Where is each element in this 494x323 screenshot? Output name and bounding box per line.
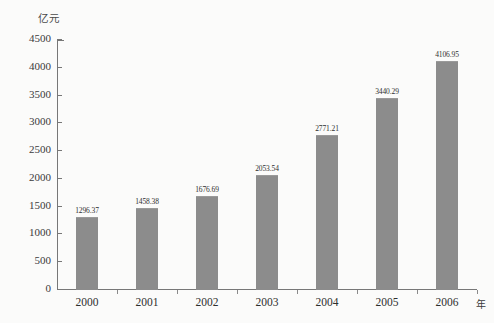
- bar: 2053.54: [256, 175, 278, 290]
- x-boundary-tick: [237, 290, 238, 294]
- y-tick: 1500: [57, 206, 62, 207]
- bar: 4106.95: [436, 61, 458, 290]
- y-tick-mark: [57, 206, 62, 207]
- bar-value-label: 1676.69: [195, 185, 219, 194]
- bar: 2771.21: [316, 135, 338, 290]
- y-tick-mark: [57, 67, 62, 68]
- y-tick-mark: [57, 122, 62, 123]
- bar-chart: 亿元 050010001500200025003000350040004500 …: [0, 0, 494, 323]
- bar-value-label: 4106.95: [435, 50, 459, 59]
- x-boundary-tick: [417, 290, 418, 294]
- y-tick: 4000: [57, 67, 62, 68]
- y-tick-label: 2000: [29, 171, 51, 183]
- y-tick: 4500: [57, 39, 62, 40]
- y-tick-mark: [57, 95, 62, 96]
- x-boundary-tick: [477, 290, 478, 294]
- x-axis-label: 2004: [316, 296, 339, 308]
- y-tick-label: 4000: [29, 60, 51, 72]
- y-tick: 3500: [57, 95, 62, 96]
- bar: 1676.69: [196, 196, 218, 290]
- x-axis-label: 2001: [136, 296, 159, 308]
- bar-value-label: 2771.21: [315, 124, 339, 133]
- bar-value-label: 1458.38: [135, 197, 159, 206]
- y-tick-mark: [57, 178, 62, 179]
- y-tick-label: 500: [35, 254, 52, 266]
- y-tick-label: 0: [46, 282, 52, 294]
- y-tick-mark: [57, 39, 62, 40]
- y-tick: 3000: [57, 122, 62, 123]
- y-tick-mark: [57, 261, 62, 262]
- y-tick-label: 1500: [29, 199, 51, 211]
- y-tick: 2000: [57, 178, 62, 179]
- bar-value-label: 3440.29: [375, 87, 399, 96]
- x-boundary-tick: [357, 290, 358, 294]
- y-tick-label: 4500: [29, 32, 51, 44]
- y-tick-mark: [57, 289, 62, 290]
- bar-value-label: 2053.54: [255, 164, 279, 173]
- bar: 1296.37: [76, 217, 98, 290]
- x-axis-label: 2005: [376, 296, 399, 308]
- y-axis-line: [57, 40, 58, 290]
- y-tick: 0: [57, 289, 62, 290]
- bar-value-label: 1296.37: [75, 206, 99, 215]
- x-axis-label: 2000: [76, 296, 99, 308]
- bar: 3440.29: [376, 98, 398, 290]
- y-tick: 500: [57, 261, 62, 262]
- y-tick-mark: [57, 233, 62, 234]
- y-tick-label: 2500: [29, 143, 51, 155]
- y-tick-label: 3500: [29, 88, 51, 100]
- plot-area: 050010001500200025003000350040004500 129…: [57, 40, 477, 290]
- y-tick-mark: [57, 150, 62, 151]
- x-boundary-tick: [297, 290, 298, 294]
- y-tick: 1000: [57, 233, 62, 234]
- y-tick-label: 3000: [29, 115, 51, 127]
- y-axis-unit-label: 亿元: [38, 10, 59, 25]
- top-left-frame-tick: [57, 40, 64, 41]
- x-boundary-tick: [117, 290, 118, 294]
- x-axis-label: 2002: [196, 296, 219, 308]
- x-boundary-tick: [177, 290, 178, 294]
- y-tick-label: 1000: [29, 226, 51, 238]
- x-axis-label: 2006: [436, 296, 459, 308]
- y-tick: 2500: [57, 150, 62, 151]
- bar: 1458.38: [136, 208, 158, 290]
- x-axis-label: 2003: [256, 296, 279, 308]
- x-axis-unit-label: 年: [476, 296, 486, 311]
